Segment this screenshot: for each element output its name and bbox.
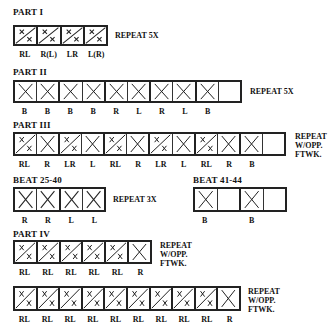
part-4-row-2-step-row <box>13 286 241 311</box>
split-x-mark-icon <box>128 288 149 309</box>
foot-label: RL <box>36 315 59 324</box>
split-step-cell <box>38 242 61 262</box>
step-cell <box>195 189 218 210</box>
beat-41-44-foot-labels: BB <box>193 216 287 225</box>
step-cell <box>173 82 196 101</box>
foot-label: RL <box>104 160 127 169</box>
repeat-line: REPEAT 3X <box>113 195 157 204</box>
split-step-cell <box>105 288 128 309</box>
split-step-cell <box>61 242 84 262</box>
x-mark-icon <box>15 189 36 210</box>
foot-label: B <box>13 107 36 116</box>
repeat-line: FTWK. <box>160 259 192 268</box>
part-2-repeat-note: REPEAT 5X <box>250 87 294 96</box>
split-step-cell <box>60 134 82 154</box>
split-step-cell <box>85 27 106 44</box>
repeat-line: REPEAT <box>160 241 192 250</box>
repeat-line: REPEAT 5X <box>250 87 294 96</box>
split-step-cell <box>83 242 106 262</box>
foot-label: LR <box>59 160 82 169</box>
foot-label: B <box>196 107 219 116</box>
foot-label: RL <box>59 268 82 277</box>
x-mark-icon <box>127 134 148 154</box>
x-mark-icon <box>37 189 58 210</box>
part-4-row-1-step-row <box>13 240 152 264</box>
part-4-row-1-repeat-note: REPEAT W/OPP. FTWK. <box>160 241 192 268</box>
repeat-line: FTWK. <box>295 150 327 159</box>
foot-label: B <box>193 216 217 225</box>
split-step-cell <box>128 288 151 309</box>
split-step-cell <box>38 27 61 44</box>
beat-25-40-repeat-note: REPEAT 3X <box>113 195 157 204</box>
step-cell <box>241 134 263 154</box>
split-x-mark-icon <box>38 288 59 309</box>
beat-41-44-title: BEAT 41-44 <box>193 175 242 185</box>
split-step-cell <box>151 288 174 309</box>
empty-cell <box>218 189 242 210</box>
foot-label <box>219 107 242 116</box>
part-4-row-2-repeat-note: REPEAT W/OPP. FTWK. <box>248 287 280 314</box>
x-mark-icon <box>82 134 103 154</box>
split-step-cell <box>83 288 106 309</box>
foot-label: R(L) <box>37 50 61 59</box>
foot-label: R <box>127 160 150 169</box>
foot-label: L <box>173 107 196 116</box>
foot-label: RL <box>13 160 36 169</box>
part-3-repeat-note: REPEAT W/OPP. FTWK. <box>295 132 327 159</box>
foot-label <box>264 216 288 225</box>
repeat-line: FTWK. <box>248 305 280 314</box>
foot-label: R <box>218 315 241 324</box>
step-cell <box>83 189 104 210</box>
repeat-line: W/OPP. <box>295 141 327 150</box>
step-cell <box>83 82 106 101</box>
foot-label: LR <box>61 50 85 59</box>
step-cell <box>37 134 60 154</box>
split-step-cell <box>38 288 61 309</box>
part-2-title: PART II <box>13 67 47 77</box>
foot-label <box>217 216 241 225</box>
x-mark-icon <box>37 134 58 154</box>
split-x-mark-icon <box>83 242 104 262</box>
step-cell <box>151 82 173 101</box>
part-2-step-row <box>13 80 242 103</box>
split-x-mark-icon <box>106 242 127 262</box>
foot-label <box>263 160 286 169</box>
split-x-mark-icon <box>15 27 36 44</box>
step-cell <box>218 288 239 309</box>
beat-25-40-title: BEAT 25-40 <box>13 175 62 185</box>
x-mark-icon <box>37 82 58 101</box>
foot-label: RL <box>173 315 196 324</box>
foot-label: R <box>13 216 36 225</box>
empty-cell <box>264 189 286 210</box>
foot-label: L <box>81 160 104 169</box>
split-x-mark-icon <box>151 288 172 309</box>
part-3-title: PART III <box>13 120 51 130</box>
x-mark-icon <box>106 82 127 101</box>
foot-label: B <box>240 216 264 225</box>
foot-label: B <box>36 107 59 116</box>
repeat-line: W/OPP. <box>160 250 192 259</box>
split-step-cell <box>15 27 38 44</box>
x-mark-icon <box>60 82 81 101</box>
foot-label: RL <box>59 315 82 324</box>
split-x-mark-icon <box>85 27 106 44</box>
foot-label: B <box>82 107 105 116</box>
repeat-line: W/OPP. <box>248 296 280 305</box>
foot-label: L <box>60 216 83 225</box>
split-x-mark-icon <box>62 27 83 44</box>
foot-label: B <box>241 160 264 169</box>
x-mark-icon <box>151 82 172 101</box>
part-4-row-1-foot-labels: RLRLRLRLRLR <box>13 268 152 277</box>
x-mark-icon <box>61 189 82 210</box>
part-2-foot-labels: BBBBRLRLB <box>13 107 242 116</box>
split-x-mark-icon <box>83 288 104 309</box>
step-cell <box>37 189 60 210</box>
split-step-cell <box>173 288 196 309</box>
split-x-mark-icon <box>60 288 81 309</box>
repeat-line: REPEAT <box>295 132 327 141</box>
step-cell <box>197 82 219 101</box>
foot-label: RL <box>195 315 218 324</box>
split-step-cell <box>196 134 218 154</box>
x-mark-icon <box>173 134 194 154</box>
part-3-foot-labels: RLRLRLRLRLRLRLRB <box>13 160 286 169</box>
